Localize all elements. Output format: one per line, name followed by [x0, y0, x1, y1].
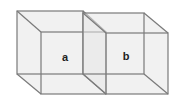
cube-label-b: b	[123, 50, 130, 62]
cube-b: b	[83, 13, 168, 94]
two-cubes-diagram: ab	[0, 0, 179, 102]
cube-label-a: a	[62, 51, 69, 63]
cube-face-front	[106, 33, 168, 94]
